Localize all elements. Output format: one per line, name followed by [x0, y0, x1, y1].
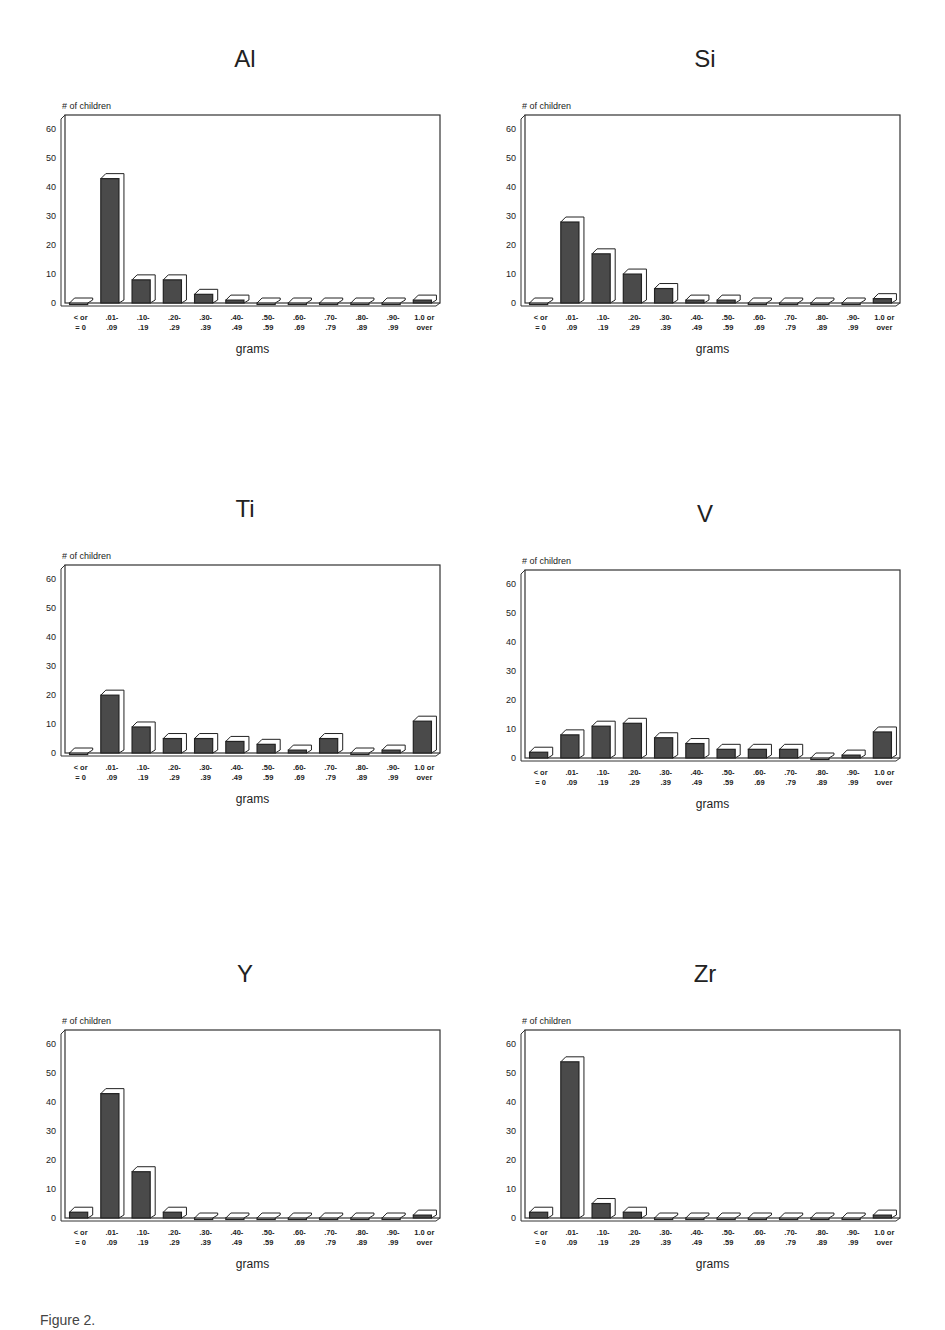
bar-front-face	[561, 1062, 579, 1218]
bar-top-face	[288, 1213, 311, 1218]
x-tick-label: .80-	[355, 763, 368, 772]
x-tick-label: 1.0 or	[874, 313, 894, 322]
y-axis-label: # of children	[522, 1016, 571, 1026]
bar-front-face	[163, 739, 181, 753]
x-tick-label: .89	[357, 1238, 367, 1247]
x-tick-label: .01-	[565, 1228, 578, 1237]
bar-front-face	[842, 1218, 860, 1220]
y-axis-label: # of children	[522, 556, 571, 566]
x-tick-label: .70-	[324, 763, 337, 772]
y-tick-label: 0	[511, 753, 516, 763]
y-tick-label: 40	[506, 182, 516, 192]
y-tick-label: 10	[506, 724, 516, 734]
x-axis-label: grams	[696, 1257, 729, 1271]
bar-front-face	[195, 294, 213, 303]
bar-front-face	[226, 300, 244, 303]
bar-front-face	[592, 254, 610, 303]
x-tick-label: .09	[567, 323, 577, 332]
x-tick-label: .49	[692, 1238, 702, 1247]
bar-front-face	[101, 1094, 119, 1218]
y-tick-label: 60	[506, 1039, 516, 1049]
bar	[530, 747, 553, 758]
bar	[686, 739, 709, 758]
bar-front-face	[195, 739, 213, 753]
x-tick-label: .99	[388, 773, 398, 782]
bar	[132, 275, 155, 303]
bar-top-face	[686, 1213, 709, 1218]
x-tick-label: .10-	[137, 1228, 150, 1237]
bar-chart-v: # of children0102030405060< or= 0.01-.09…	[490, 500, 920, 830]
x-tick-label: over	[416, 323, 432, 332]
bar	[561, 217, 584, 303]
x-tick-label: .01-	[105, 1228, 118, 1237]
x-tick-label: .40-	[230, 763, 243, 772]
x-tick-label: .60-	[753, 313, 766, 322]
x-tick-label: < or	[74, 1228, 88, 1237]
x-tick-label: .19	[138, 1238, 148, 1247]
bar-top-face	[717, 1213, 740, 1218]
bar	[842, 750, 865, 758]
x-tick-label: .10-	[137, 313, 150, 322]
x-tick-label: .40-	[230, 313, 243, 322]
bar-top-face	[351, 298, 374, 303]
y-tick-label: 20	[46, 1155, 56, 1165]
x-tick-label: .90-	[387, 313, 400, 322]
bar-top-face	[530, 298, 553, 303]
bar-front-face	[842, 303, 860, 305]
x-tick-label: .19	[598, 1238, 608, 1247]
x-tick-label: .30-	[199, 763, 212, 772]
x-tick-label: .01-	[565, 768, 578, 777]
bar-front-face	[288, 303, 306, 305]
y-tick-label: 40	[46, 632, 56, 642]
bar-front-face	[873, 1215, 891, 1218]
x-tick-label: .79	[325, 323, 335, 332]
x-tick-label: .79	[785, 1238, 795, 1247]
bar	[195, 734, 218, 753]
y-tick-label: 10	[46, 719, 56, 729]
x-tick-label: 1.0 or	[414, 1228, 434, 1237]
x-tick-label: .10-	[597, 1228, 610, 1237]
x-tick-label: .70-	[324, 1228, 337, 1237]
x-tick-label: .30-	[659, 313, 672, 322]
x-tick-label: .20-	[628, 313, 641, 322]
x-tick-label: .09	[107, 773, 117, 782]
bar-front-face	[873, 299, 891, 303]
x-tick-label: < or	[74, 763, 88, 772]
bar-top-face	[257, 1213, 280, 1218]
y-tick-label: 10	[506, 1184, 516, 1194]
x-tick-label: = 0	[535, 323, 546, 332]
chart-panel-zr: Zr # of children0102030405060< or= 0.01-…	[490, 960, 920, 1290]
x-tick-label: over	[416, 773, 432, 782]
x-tick-label: .29	[629, 1238, 639, 1247]
bar-front-face	[320, 1218, 338, 1220]
chart-panel-v: V # of children0102030405060< or= 0.01-.…	[490, 500, 920, 830]
x-tick-label: .20-	[168, 313, 181, 322]
y-tick-label: 60	[46, 574, 56, 584]
bar-front-face	[811, 758, 829, 760]
y-tick-label: 50	[46, 153, 56, 163]
x-tick-label: .79	[325, 1238, 335, 1247]
bar-front-face	[382, 1218, 400, 1220]
x-tick-label: .49	[232, 773, 242, 782]
bar	[163, 734, 186, 753]
x-tick-label: .01-	[105, 763, 118, 772]
bar-front-face	[226, 1218, 244, 1220]
x-tick-label: .60-	[753, 768, 766, 777]
x-tick-label: = 0	[75, 1238, 86, 1247]
x-tick-label: .99	[388, 1238, 398, 1247]
y-tick-label: 60	[46, 124, 56, 134]
x-tick-label: .39	[200, 1238, 210, 1247]
bar	[132, 722, 155, 753]
y-tick-label: 0	[51, 298, 56, 308]
bar-front-face	[257, 1218, 275, 1220]
x-tick-label: .29	[169, 323, 179, 332]
bar-front-face	[530, 752, 548, 758]
bar-top-face	[780, 298, 803, 303]
bar	[195, 289, 218, 303]
x-tick-label: .60-	[753, 1228, 766, 1237]
x-tick-label: over	[416, 1238, 432, 1247]
bar-front-face	[592, 726, 610, 758]
bar-front-face	[288, 750, 306, 753]
bar	[717, 744, 740, 758]
bar-front-face	[717, 1218, 735, 1220]
